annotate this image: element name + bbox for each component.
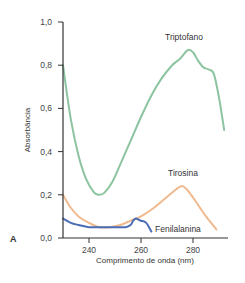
- x-tick-label: 280: [186, 245, 200, 255]
- series-line-tirosina: [63, 186, 216, 229]
- y-axis-label: Absorbância: [23, 107, 32, 152]
- x-ticks: 240260280: [82, 238, 200, 255]
- y-tick-label: 1,0: [40, 17, 52, 27]
- series-layer: [63, 50, 224, 232]
- series-label-fenilalanina: Fenilalanina: [155, 224, 201, 234]
- x-axis-label: Comprimento de onda (nm): [96, 256, 194, 265]
- series-label-tirosina: Tirosina: [168, 168, 198, 178]
- series-line-triptofano: [63, 50, 224, 195]
- y-tick-label: 0,8: [40, 60, 52, 70]
- y-tick-label: 0,6: [40, 103, 52, 113]
- series-line-fenilalanina: [63, 219, 151, 232]
- panel-label: A: [10, 234, 17, 244]
- x-tick-label: 240: [82, 245, 96, 255]
- y-tick-label: 0,0: [40, 233, 52, 243]
- x-tick-label: 260: [134, 245, 148, 255]
- y-tick-label: 0,2: [40, 190, 52, 200]
- absorbance-chart: 0,00,20,40,60,81,0 240260280 A Comprimen…: [0, 0, 245, 283]
- y-ticks: 0,00,20,40,60,81,0: [40, 17, 63, 243]
- series-label-triptofano: Triptofano: [165, 32, 203, 42]
- y-tick-label: 0,4: [40, 147, 52, 157]
